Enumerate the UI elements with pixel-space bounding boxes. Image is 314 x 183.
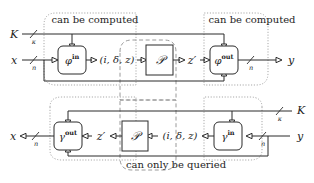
- label-top-y-width: n: [249, 65, 253, 72]
- arrow-phi-out-y: [276, 57, 282, 62]
- caption-top-left: can be computed: [52, 15, 139, 25]
- label-block-p-bottom: 𝒫: [131, 130, 140, 142]
- label-gamma-out-sup: out: [65, 129, 77, 137]
- arrow-top-x-phi-in: [52, 57, 58, 62]
- label-gamma-in-sup: in: [227, 129, 234, 137]
- label-block-p-top: 𝒫: [156, 54, 165, 66]
- caption-bottom-center: can only be queried: [126, 160, 226, 170]
- wire-bottom-key-to-gamma-out: [68, 111, 292, 120]
- arrow-p-bottom-zprime: [110, 133, 116, 138]
- label-top-key-width: κ: [32, 39, 36, 46]
- label-bottom-zprime: z′: [97, 131, 105, 142]
- label-bottom-y: y: [297, 131, 303, 142]
- label-bottom-x-width: n: [34, 141, 38, 148]
- diagram-svg: [0, 0, 314, 183]
- label-bottom-key-width: κ: [278, 116, 282, 123]
- label-block-gamma-in: γin: [221, 130, 234, 141]
- arrow-gamma-out-x: [20, 133, 26, 138]
- arrow-zprime-gamma-out: [82, 133, 88, 138]
- caption-top-right: can be computed: [209, 15, 296, 25]
- label-top-key: K: [10, 29, 18, 40]
- label-top-x-width: n: [32, 65, 36, 72]
- label-bottom-tuple: (i, δ, z): [162, 131, 197, 141]
- label-top-tuple: (i, δ, z): [99, 55, 134, 65]
- label-block-gamma-out: γout: [59, 130, 77, 141]
- label-bottom-y-width: n: [261, 141, 265, 148]
- wire-top-key-to-phi-out: [72, 34, 224, 44]
- label-block-phi-in: φin: [65, 54, 79, 65]
- label-top-y: y: [288, 55, 294, 66]
- label-phi-out-sup: out: [221, 53, 233, 61]
- label-block-phi-out: φout: [214, 54, 233, 65]
- wire-top-key-to-phi-in: [22, 34, 72, 44]
- label-bottom-key: K: [297, 105, 305, 116]
- label-top-zprime: z′: [188, 55, 196, 66]
- label-phi-out-base: φ: [214, 55, 221, 66]
- arrow-bottom-y-gamma-in: [246, 133, 252, 138]
- arrow-gamma-in-tuple: [202, 133, 208, 138]
- figure-canvas: can be computed can be computed can only…: [0, 0, 314, 183]
- label-phi-in-base: φ: [65, 55, 72, 66]
- label-bottom-x: x: [10, 131, 16, 142]
- label-top-x: x: [11, 55, 17, 66]
- label-phi-in-sup: in: [72, 53, 79, 61]
